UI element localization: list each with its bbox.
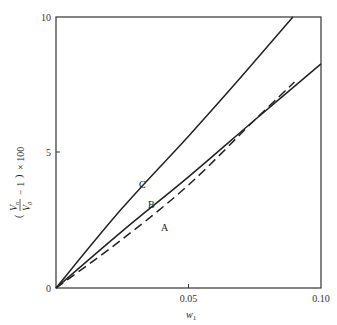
- y-tick-label-5: 5: [46, 147, 51, 158]
- curve-c: [56, 17, 293, 288]
- svg-text:(: (: [13, 214, 25, 218]
- x-axis-title: w1: [186, 309, 197, 322]
- curve-label-a: A: [161, 222, 169, 233]
- svg-text:× 100: × 100: [15, 147, 26, 170]
- curve-label-c: C: [139, 179, 146, 190]
- y-tick-label-10: 10: [41, 12, 51, 23]
- plot-frame: [56, 17, 321, 288]
- svg-text:): ): [13, 175, 25, 178]
- svg-text:Vn: Vn: [8, 202, 20, 211]
- y-axis-title: ( Vn V0 − 1 ) × 100: [8, 147, 33, 218]
- svg-text:− 1: − 1: [15, 182, 26, 195]
- y-tick-label-0: 0: [46, 283, 51, 294]
- curve-b: [56, 64, 321, 288]
- x-tick-label-005: 0.05: [180, 293, 198, 304]
- curve-label-b: B: [148, 199, 155, 210]
- svg-text:V0: V0: [21, 202, 33, 211]
- chart: 10 5 0 0.05 0.10 w1 ( Vn V0 − 1 ) × 100 …: [0, 0, 337, 325]
- x-tick-label-010: 0.10: [312, 293, 330, 304]
